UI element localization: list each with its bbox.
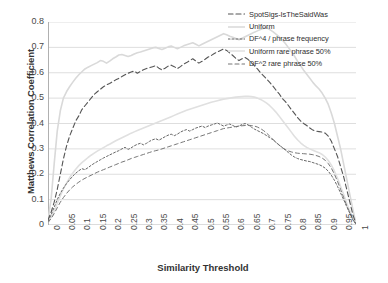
legend-line-swatch: [228, 46, 245, 56]
x-axis-tick-label: 0.25: [129, 213, 139, 230]
x-axis-tick-label: 0.5: [206, 218, 216, 230]
series-line: [48, 96, 356, 224]
chart-container: Matthews Correlation Coefficient 00.10.2…: [0, 0, 388, 283]
x-axis-tick-label: 1: [360, 225, 370, 230]
x-axis-tick-label: 0.05: [67, 213, 77, 230]
x-axis-tick-label: 0: [52, 225, 62, 230]
legend-line-swatch: [228, 22, 245, 32]
x-axis-tick-labels: 00.050.10.150.20.250.30.350.40.450.50.55…: [48, 226, 356, 266]
x-axis-tick-label: 0.35: [159, 213, 169, 230]
x-axis-tick-label: 0.6: [236, 218, 246, 230]
series-line: [48, 123, 356, 224]
x-axis-tick-label: 0.9: [329, 218, 339, 230]
legend-line-swatch: [228, 59, 245, 69]
legend-item[interactable]: Uniform: [228, 20, 386, 32]
x-axis-tick-label: 0.55: [221, 213, 231, 230]
legend-item[interactable]: DF^4 / phrase frequency: [228, 33, 386, 45]
x-axis-title: Similarity Threshold: [48, 262, 358, 273]
legend-label: SpotSigs-IsTheSaidWas: [249, 10, 328, 19]
legend-label: DF^2 rare phrase 50%: [249, 59, 322, 68]
y-axis-tick-label: 0.6: [12, 68, 44, 77]
legend-label: Uniform rare phrase 50%: [249, 47, 330, 56]
chart-legend: SpotSigs-IsTheSaidWasUniformDF^4 / phras…: [228, 8, 386, 70]
x-axis-tick-label: 0.65: [252, 213, 262, 230]
series-line: [48, 49, 356, 224]
x-axis-tick-label: 0.4: [175, 218, 185, 230]
x-axis-tick-label: 0.95: [344, 213, 354, 230]
y-axis-tick-label: 0.8: [12, 17, 44, 26]
x-axis-tick-label: 0.2: [113, 218, 123, 230]
legend-line-swatch: [228, 9, 245, 19]
y-axis-tick-label: 0.7: [12, 42, 44, 51]
x-axis-tick-label: 0.7: [267, 218, 277, 230]
x-axis-tick-label: 0.8: [298, 218, 308, 230]
legend-label: DF^4 / phrase frequency: [249, 34, 329, 43]
y-axis-tick-label: 0.5: [12, 93, 44, 102]
x-axis-tick-label: 0.45: [190, 213, 200, 230]
y-axis-tick-label: 0.4: [12, 119, 44, 128]
series-line: [48, 125, 356, 224]
legend-line-swatch: [228, 34, 245, 44]
x-axis-tick-label: 0.1: [82, 218, 92, 230]
x-axis-tick-label: 0.3: [144, 218, 154, 230]
y-axis-tick-label: 0.1: [12, 195, 44, 204]
x-axis-tick-label: 0.75: [283, 213, 293, 230]
x-axis-tick-label: 0.85: [313, 213, 323, 230]
legend-item[interactable]: SpotSigs-IsTheSaidWas: [228, 8, 386, 20]
y-axis-tick-labels: 00.10.20.30.40.50.60.70.8: [12, 0, 44, 225]
x-axis-tick-label: 0.15: [98, 213, 108, 230]
y-axis-tick-label: 0.3: [12, 144, 44, 153]
legend-item[interactable]: DF^2 rare phrase 50%: [228, 58, 386, 70]
legend-label: Uniform: [249, 22, 275, 31]
y-axis-tick-label: 0: [12, 220, 44, 229]
y-axis-tick-label: 0.2: [12, 169, 44, 178]
legend-item[interactable]: Uniform rare phrase 50%: [228, 45, 386, 57]
